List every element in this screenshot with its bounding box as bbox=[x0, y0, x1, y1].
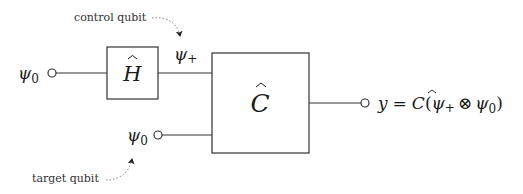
hadamard-label: H bbox=[122, 62, 142, 86]
target-input-node bbox=[154, 131, 162, 139]
target-qubit-label: target qubit bbox=[32, 172, 99, 185]
circuit-diagram: control qubit ψ0 H ψ+ ψ0 target qubit C … bbox=[0, 0, 523, 194]
psi-plus-label: ψ+ bbox=[174, 44, 197, 66]
control-input-label: ψ0 bbox=[18, 63, 39, 86]
output-node bbox=[361, 99, 369, 107]
output-expression: y=C(ψ+⊗ψ0) bbox=[377, 93, 503, 116]
control-input-node bbox=[48, 69, 56, 77]
controlled-gate-label: C bbox=[250, 89, 269, 118]
target-input-label: ψ0 bbox=[127, 125, 148, 148]
control-annotation-arrow bbox=[152, 18, 180, 36]
control-qubit-label: control qubit bbox=[74, 11, 147, 24]
target-annotation-arrow bbox=[106, 159, 132, 180]
